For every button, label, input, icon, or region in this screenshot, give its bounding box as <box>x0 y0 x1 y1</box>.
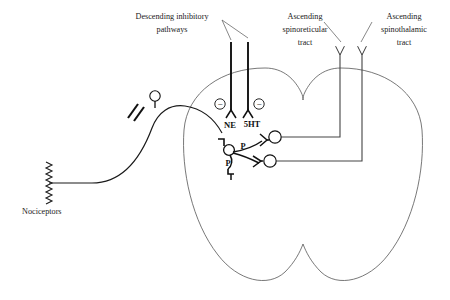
label-ascending-spinoreticular-tract: Ascending spinoreticular tract <box>282 12 327 47</box>
dorsal-root-ganglion <box>150 91 160 108</box>
label-nociceptors: Nociceptors <box>22 207 62 216</box>
spinothalamic-label-line-3: tract <box>397 38 412 47</box>
spinothalamic-label-line-1: Ascending <box>386 12 421 21</box>
descending-noradrenergic-fiber <box>226 42 236 118</box>
spinoreticular-label-line-3: tract <box>298 38 313 47</box>
label-ascending-spinothalamic-tract: Ascending spinothalamic tract <box>381 12 427 47</box>
pain-pathway-diagram: − − NE 5HT P P <box>0 0 450 300</box>
label-substance-p-lower: P <box>225 159 230 168</box>
spinothalamic-projection-neuron <box>253 55 362 167</box>
axon-interruption-marks <box>128 104 144 121</box>
descending-serotonergic-fiber <box>243 42 253 118</box>
label-ne: NE <box>224 120 236 130</box>
inhibition-symbol-ne: − <box>215 99 225 110</box>
label-5ht: 5HT <box>244 119 261 129</box>
inhibition-symbol-5ht: − <box>254 99 264 110</box>
label-substance-p-upper: P <box>240 142 245 151</box>
minus-sign-5ht: − <box>256 99 261 109</box>
minus-sign-ne: − <box>217 99 222 109</box>
spinoreticular-label-line-1: Ascending <box>287 12 322 21</box>
descending-label-line-1: Descending inhibitory <box>136 12 210 21</box>
descending-label-line-2: pathways <box>157 25 188 34</box>
diagram-canvas: − − NE 5HT P P <box>0 0 450 300</box>
spinothalamic-label-line-2: spinothalamic <box>381 25 427 34</box>
spinoreticular-label-line-2: spinoreticular <box>282 25 327 34</box>
label-descending-inhibitory-pathways: Descending inhibitory pathways <box>136 12 210 34</box>
